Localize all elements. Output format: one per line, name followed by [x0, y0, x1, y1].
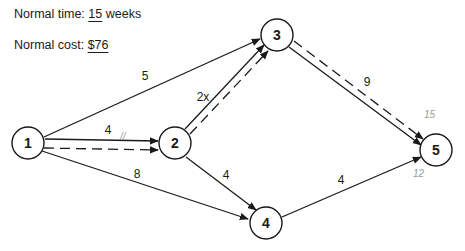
edge-label-1-3: 5	[142, 69, 149, 83]
edge-1-3	[44, 39, 260, 137]
edge-label-1-2: 4	[105, 123, 112, 137]
edge-1-2	[45, 139, 158, 141]
node-5: 5	[420, 134, 452, 166]
edge-3-5	[289, 47, 421, 145]
node-1: 1	[12, 127, 44, 159]
edge-label-4-5: 4	[338, 173, 345, 187]
svg-text:2: 2	[171, 135, 179, 151]
edge-label-2-3: 2x	[197, 90, 210, 104]
svg-text:3: 3	[273, 27, 281, 43]
edge-label-1-4: 8	[134, 167, 141, 181]
critical-edge-3-5	[294, 41, 423, 139]
edge-2-3	[185, 45, 264, 129]
edge-1-4	[42, 151, 248, 219]
annotation-node5-top: 15	[424, 109, 436, 120]
edge-label-3-5: 9	[364, 75, 371, 89]
svg-text:4: 4	[262, 215, 270, 231]
svg-text:5: 5	[432, 142, 440, 158]
node-2: 2	[159, 127, 191, 159]
node-3: 3	[261, 19, 293, 51]
node-4: 4	[250, 207, 282, 239]
edge-label-2-4: 4	[223, 168, 230, 182]
annotation-node5-bottom: 12	[413, 168, 425, 179]
network-diagram: 5 4 8 2x 4 9 4 // 15 12 1 2 3 4 5	[0, 0, 465, 251]
critical-edge-1-2	[44, 148, 158, 150]
svg-text:1: 1	[24, 135, 32, 151]
edge-4-5	[282, 157, 421, 217]
